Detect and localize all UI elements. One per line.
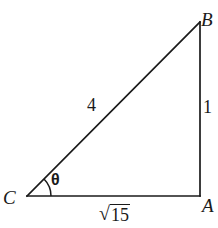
- side-length-adjacent: √15: [99, 204, 130, 224]
- side-length-opposite: 1: [203, 98, 212, 116]
- vertex-label-b: B: [201, 10, 213, 29]
- triangle-drawing: [0, 0, 218, 228]
- angle-label-theta: θ: [51, 172, 60, 188]
- triangle-side-hypotenuse: [27, 22, 200, 196]
- radical-sign-icon: √: [99, 204, 110, 223]
- angle-arc: [44, 179, 51, 196]
- side-length-hypotenuse: 4: [87, 96, 96, 114]
- vertex-label-c: C: [3, 188, 16, 207]
- geometry-figure: B A C 4 1 θ √15: [0, 0, 218, 228]
- vertex-label-a: A: [202, 196, 214, 215]
- radicand-value: 15: [110, 204, 130, 224]
